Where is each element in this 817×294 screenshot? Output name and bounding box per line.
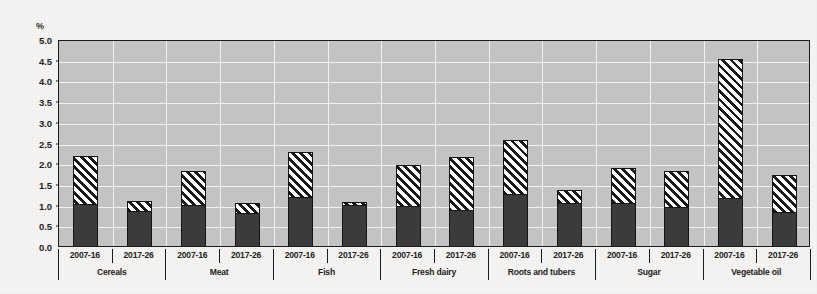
- y-axis-tick-label: 0.5: [26, 221, 52, 232]
- x-axis-period-label: 2007-16: [595, 250, 649, 260]
- x-axis-period-label: 2017-26: [112, 250, 166, 260]
- period-separator: [112, 249, 113, 263]
- period-separator: [541, 249, 542, 263]
- bar-segment-lower: [396, 206, 421, 246]
- y-axis-tick-label: 3.0: [26, 117, 52, 128]
- plot-area: [58, 40, 810, 247]
- vertical-gridline: [650, 41, 651, 246]
- x-axis-period-label: 2007-16: [58, 250, 112, 260]
- x-axis-period-label: 2007-16: [380, 250, 434, 260]
- x-axis-period-label: 2007-16: [488, 250, 542, 260]
- bar-segment-lower: [718, 198, 743, 246]
- axis-edge-separator: [810, 249, 811, 280]
- x-axis-period-label: 2007-16: [273, 250, 327, 260]
- bar: [503, 140, 528, 246]
- group-separator: [488, 249, 489, 280]
- horizontal-gridline: [59, 82, 809, 83]
- bar-segment-lower: [73, 204, 98, 246]
- vertical-gridline: [274, 41, 275, 246]
- bar: [557, 190, 582, 246]
- y-axis-tick-label: 4.0: [26, 76, 52, 87]
- x-axis-line: [58, 246, 810, 247]
- x-axis-category-label: Roots and tubers: [488, 267, 595, 277]
- vertical-gridline: [220, 41, 221, 246]
- group-separator: [165, 249, 166, 280]
- y-axis-tick-label: 3.5: [26, 97, 52, 108]
- vertical-gridline: [542, 41, 543, 246]
- group-separator: [703, 249, 704, 280]
- bar: [772, 175, 797, 246]
- y-axis-tick-label: 4.5: [26, 55, 52, 66]
- vertical-gridline: [435, 41, 436, 246]
- y-axis-tick-label: 2.0: [26, 159, 52, 170]
- x-axis-period-label: 2017-26: [219, 250, 273, 260]
- x-axis-category-label: Vegetable oil: [703, 267, 810, 277]
- bar-segment-lower: [235, 213, 260, 246]
- vertical-gridline: [381, 41, 382, 246]
- x-axis-category-label: Fish: [273, 267, 380, 277]
- bar-segment-lower: [557, 203, 582, 246]
- x-axis-category-label: Meat: [165, 267, 272, 277]
- x-axis-period-label: 2017-26: [327, 250, 381, 260]
- x-axis-category-label: Fresh dairy: [380, 267, 487, 277]
- vertical-gridline: [757, 41, 758, 246]
- bar: [449, 157, 474, 246]
- horizontal-gridline: [59, 124, 809, 125]
- bar-segment-lower: [449, 210, 474, 246]
- x-axis-period-label: 2017-26: [649, 250, 703, 260]
- bar-chart: % 5.04.54.03.53.02.52.01.51.00.50.0 2007…: [0, 0, 817, 294]
- horizontal-gridline: [59, 165, 809, 166]
- period-separator: [219, 249, 220, 263]
- group-separator: [380, 249, 381, 280]
- y-axis-tick-label: 1.5: [26, 179, 52, 190]
- x-axis-category-label: Cereals: [58, 267, 165, 277]
- bar: [611, 168, 636, 246]
- x-axis-category-label: Sugar: [595, 267, 702, 277]
- vertical-gridline: [166, 41, 167, 246]
- axis-edge-separator: [58, 249, 59, 280]
- horizontal-gridline: [59, 227, 809, 228]
- x-axis-period-label: 2007-16: [165, 250, 219, 260]
- bar: [396, 165, 421, 246]
- vertical-gridline: [596, 41, 597, 246]
- bar: [235, 203, 260, 246]
- bar: [73, 156, 98, 246]
- period-separator: [756, 249, 757, 263]
- y-axis-tick-label: 2.5: [26, 138, 52, 149]
- horizontal-gridline: [59, 62, 809, 63]
- x-axis-period-label: 2017-26: [434, 250, 488, 260]
- bar-segment-lower: [342, 205, 367, 246]
- vertical-gridline: [704, 41, 705, 246]
- group-separator: [273, 249, 274, 280]
- bar-segment-lower: [772, 212, 797, 246]
- bar: [181, 171, 206, 246]
- bar-segment-lower: [288, 197, 313, 246]
- bar-segment-lower: [127, 211, 152, 246]
- bar: [342, 202, 367, 246]
- period-separator: [434, 249, 435, 263]
- bar-segment-lower: [181, 205, 206, 246]
- bar: [664, 171, 689, 246]
- y-axis-tick-label: 1.0: [26, 200, 52, 211]
- x-axis-period-label: 2017-26: [756, 250, 810, 260]
- horizontal-gridline: [59, 207, 809, 208]
- group-separator: [595, 249, 596, 280]
- vertical-gridline: [489, 41, 490, 246]
- x-axis-period-label: 2017-26: [541, 250, 595, 260]
- bar: [288, 152, 313, 246]
- y-axis-tick-label: 5.0: [26, 35, 52, 46]
- vertical-gridline: [113, 41, 114, 246]
- horizontal-gridline: [59, 103, 809, 104]
- bar-segment-lower: [503, 194, 528, 246]
- bar-segment-lower: [664, 207, 689, 246]
- bar-segment-lower: [611, 203, 636, 246]
- x-axis-period-label: 2007-16: [703, 250, 757, 260]
- vertical-gridline: [328, 41, 329, 246]
- y-axis-tick-label: 0.0: [26, 242, 52, 253]
- y-axis-unit-label: %: [36, 21, 44, 31]
- horizontal-gridline: [59, 145, 809, 146]
- period-separator: [649, 249, 650, 263]
- period-separator: [327, 249, 328, 263]
- bar: [718, 59, 743, 246]
- horizontal-gridline: [59, 186, 809, 187]
